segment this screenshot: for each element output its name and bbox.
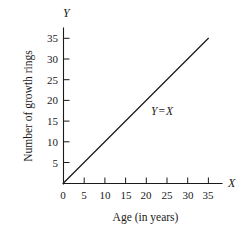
y-tick-label: 35 xyxy=(38,33,58,44)
x-axis-symbol: X xyxy=(228,176,235,191)
x-tick-label: 0 xyxy=(60,190,66,201)
x-tick-label: 10 xyxy=(100,190,111,201)
x-tick-label: 5 xyxy=(81,190,87,201)
x-tick-label: 15 xyxy=(121,190,132,201)
x-axis-title: Age (in years) xyxy=(78,211,213,223)
y-tick-label: 25 xyxy=(38,75,58,86)
y-tick-label: 20 xyxy=(38,95,58,106)
y-axis-symbol: Y xyxy=(63,6,70,21)
growth-rings-line-chart: 35 30 25 20 15 10 5 0 5 10 15 20 25 30 3… xyxy=(0,0,249,235)
x-tick-label: 20 xyxy=(141,190,152,201)
annotation-operator: = xyxy=(157,105,166,117)
y-tick-label: 10 xyxy=(38,137,58,148)
y-tick-label: 5 xyxy=(38,158,58,169)
x-tick-label: 25 xyxy=(162,190,173,201)
series-annotation: Y=X xyxy=(151,105,173,117)
y-axis-title: Number of growth rings xyxy=(22,26,34,186)
annotation-rhs: X xyxy=(166,105,173,117)
y-tick-label: 15 xyxy=(38,116,58,127)
y-tick-label: 30 xyxy=(38,54,58,65)
x-axis-ticks xyxy=(84,178,208,184)
x-tick-label: 30 xyxy=(183,190,194,201)
x-tick-label: 35 xyxy=(203,190,214,201)
y-axis-ticks xyxy=(64,38,70,162)
series-line-y-equals-x xyxy=(64,38,209,183)
